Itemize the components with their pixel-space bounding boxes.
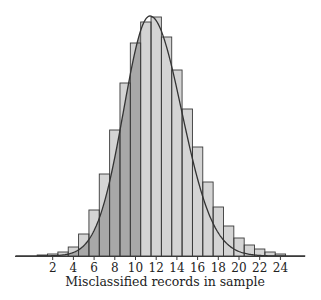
histogram-bar [172, 70, 182, 256]
x-tick-label: 18 [211, 261, 226, 275]
bar-outlines [37, 17, 285, 256]
histogram-bar [141, 22, 151, 256]
x-tick-label: 2 [49, 261, 57, 275]
x-tick-label: 14 [169, 261, 185, 275]
x-tick-label: 22 [252, 261, 267, 275]
x-axis-label: Misclassified records in sample [65, 274, 265, 289]
histogram-bar [182, 109, 192, 256]
x-tick-label: 20 [231, 261, 246, 275]
x-tick-label: 16 [190, 261, 205, 275]
x-tick-label: 6 [90, 261, 98, 275]
x-tick-label: 4 [70, 261, 78, 275]
histogram-bar [213, 207, 223, 256]
x-axis-ticks: 24681012141618202224 [49, 256, 289, 275]
x-tick-label: 10 [128, 261, 143, 275]
histogram-bar [151, 17, 161, 256]
x-tick-label: 8 [111, 261, 119, 275]
histogram-chart: 24681012141618202224 Misclassified recor… [0, 0, 321, 300]
x-tick-label: 24 [273, 261, 289, 275]
histogram-bar [161, 37, 171, 256]
x-tick-label: 12 [149, 261, 164, 275]
